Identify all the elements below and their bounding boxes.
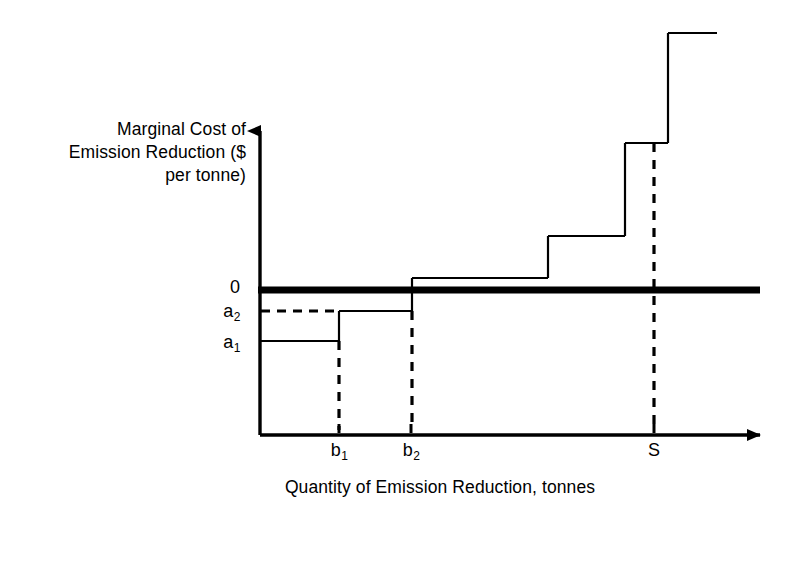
ytick-a1-text: a xyxy=(223,332,233,352)
x-axis-title: Quantity of Emission Reduction, tonnes xyxy=(205,477,675,498)
ytick-a1-subscript: 1 xyxy=(234,341,241,355)
ytick-a2-subscript: 2 xyxy=(234,310,241,324)
xtick-b1-text: b xyxy=(331,440,341,460)
emission-reduction-cost-chart: Marginal Cost of Emission Reduction ($ p… xyxy=(0,0,805,580)
ytick-label-a2: a2 xyxy=(180,302,240,322)
xtick-s-text: S xyxy=(648,440,660,460)
xtick-b1-subscript: 1 xyxy=(341,449,348,463)
ytick-zero-text: 0 xyxy=(230,277,240,297)
xtick-label-b2: b2 xyxy=(381,441,441,461)
ytick-label-a1: a1 xyxy=(180,333,240,353)
xtick-b2-subscript: 2 xyxy=(413,449,420,463)
xtick-label-s: S xyxy=(624,441,684,459)
y-axis-title: Marginal Cost of Emission Reduction ($ p… xyxy=(20,118,246,187)
xtick-b2-text: b xyxy=(403,440,413,460)
ytick-label-zero: 0 xyxy=(180,278,240,296)
xtick-label-b1: b1 xyxy=(309,441,369,461)
ytick-a2-text: a xyxy=(223,301,233,321)
